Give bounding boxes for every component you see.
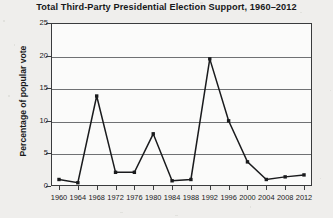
scan-artifact (8, 95, 10, 97)
x-tick-mark (172, 186, 173, 190)
x-tick-mark (210, 186, 211, 190)
scan-artifact (14, 44, 15, 46)
scan-artifact (200, 2, 203, 4)
scan-artifact (300, 12, 302, 13)
x-tick-mark (153, 186, 154, 190)
y-tick-mark (46, 56, 51, 57)
y-tick-label: 5 (26, 148, 48, 157)
scan-artifact (120, 212, 123, 213)
scan-artifact (175, 215, 178, 216)
scan-artifact (250, 206, 251, 208)
y-tick-mark (46, 186, 51, 187)
x-tick-label: 2012 (287, 193, 321, 202)
y-tick-mark (46, 88, 51, 89)
x-tick-mark (116, 186, 117, 190)
y-tick-label: 20 (26, 51, 48, 60)
y-tick-mark (46, 121, 51, 122)
x-tick-mark (97, 186, 98, 190)
y-tick-label: 10 (26, 116, 48, 125)
gridline (52, 122, 311, 123)
chart-title: Total Third-Party Presidential Election … (0, 2, 333, 12)
x-tick-mark (59, 186, 60, 190)
scan-artifact (3, 20, 5, 22)
y-tick-label: 0 (26, 181, 48, 190)
y-tick-label: 25 (26, 18, 48, 27)
x-tick-mark (247, 186, 248, 190)
x-tick-mark (78, 186, 79, 190)
x-tick-mark (266, 186, 267, 190)
scan-artifact (330, 90, 331, 91)
scan-artifact (320, 178, 321, 179)
y-tick-label: 15 (26, 83, 48, 92)
gridline (52, 154, 311, 155)
x-tick-mark (229, 186, 230, 190)
scan-artifact (22, 150, 25, 152)
y-tick-mark (46, 23, 51, 24)
scan-artifact (60, 6, 62, 7)
gridline (52, 89, 311, 90)
gridline (52, 57, 311, 58)
x-tick-mark (134, 186, 135, 190)
y-tick-mark (46, 153, 51, 154)
x-tick-mark (285, 186, 286, 190)
plot-area (51, 23, 312, 186)
chart-figure: Total Third-Party Presidential Election … (0, 0, 333, 218)
x-tick-mark (304, 186, 305, 190)
x-tick-mark (191, 186, 192, 190)
